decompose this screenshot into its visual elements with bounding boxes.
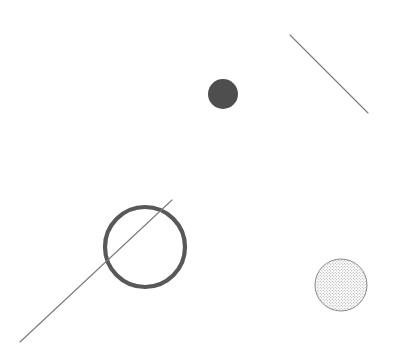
shape-canvas-root <box>0 0 401 363</box>
stippled-circle-shape[interactable] <box>315 259 367 311</box>
filled-dot-shape[interactable] <box>208 79 238 109</box>
shape-canvas <box>0 0 401 363</box>
